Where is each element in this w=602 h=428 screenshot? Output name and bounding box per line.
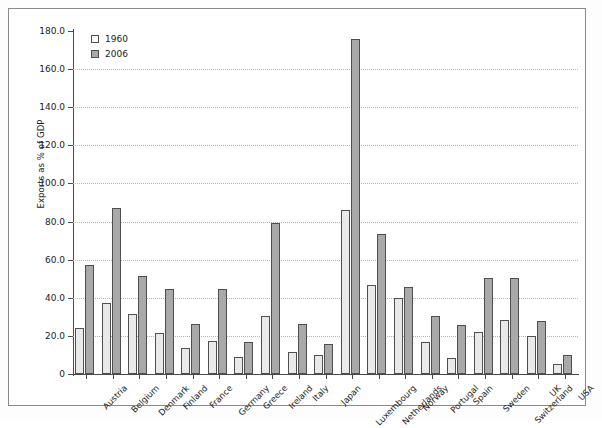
bar-austria-1960	[75, 328, 84, 374]
bar-france-2006	[191, 324, 200, 374]
bar-netherlands-1960	[367, 285, 376, 374]
bar-portugal-2006	[431, 316, 440, 374]
bar-ireland-1960	[261, 316, 270, 374]
bar-group	[232, 31, 259, 374]
x-tick-label: Italy	[310, 383, 330, 403]
y-tick-label: 180.0	[39, 26, 65, 36]
legend-swatch-1960	[91, 35, 99, 43]
bar-austria-2006	[85, 265, 94, 374]
legend-label-2006: 2006	[105, 49, 128, 59]
x-tick-label: Sweden	[501, 383, 532, 414]
y-tick-label: 0	[59, 369, 65, 379]
bar-uk-2006	[537, 321, 546, 374]
x-tick	[272, 374, 273, 379]
bar-japan-2006	[324, 344, 333, 374]
x-tick	[299, 374, 300, 379]
bar-luxembourg-1960	[341, 210, 350, 374]
bar-norway-2006	[404, 287, 413, 374]
bar-usa-2006	[563, 355, 572, 374]
x-tick	[538, 374, 539, 379]
bar-ireland-2006	[271, 223, 280, 374]
x-tick	[432, 374, 433, 379]
y-tick-label: 120.0	[39, 140, 65, 150]
x-tick	[512, 374, 513, 379]
y-tick-label: 100.0	[39, 178, 65, 188]
bar-switzerland-2006	[510, 278, 519, 374]
x-tick	[485, 374, 486, 379]
chart-frame: Exports as % of GDP 180.0160.0140.0120.0…	[8, 8, 586, 406]
bar-group	[525, 31, 552, 374]
bar-netherlands-2006	[377, 234, 386, 374]
bar-sweden-1960	[474, 332, 483, 374]
x-tick	[458, 374, 459, 379]
plot-area: 180.0160.0140.0120.0100.080.060.040.020.…	[73, 31, 578, 374]
x-tick-label: France	[207, 383, 234, 410]
legend-item-2006: 2006	[91, 46, 128, 61]
legend-swatch-2006	[91, 50, 99, 58]
bar-belgium-2006	[112, 208, 121, 374]
x-tick	[193, 374, 194, 379]
x-tick	[565, 374, 566, 379]
bar-group	[259, 31, 286, 374]
y-tick-label: 20.0	[45, 331, 65, 341]
bar-finland-1960	[155, 333, 164, 374]
bar-italy-1960	[288, 352, 297, 374]
bar-group	[445, 31, 472, 374]
bar-finland-2006	[165, 289, 174, 374]
bar-spain-2006	[457, 325, 466, 374]
bar-italy-2006	[298, 324, 307, 374]
x-tick	[86, 374, 87, 379]
bar-usa-1960	[553, 364, 562, 374]
x-tick-label: Austria	[101, 383, 129, 411]
bar-group	[339, 31, 366, 374]
bar-portugal-1960	[421, 342, 430, 374]
bar-uk-1960	[527, 336, 536, 374]
x-tick	[246, 374, 247, 379]
bar-group	[419, 31, 446, 374]
bar-germany-2006	[218, 289, 227, 374]
bar-belgium-1960	[102, 303, 111, 374]
x-tick-label: Japan	[338, 383, 362, 407]
y-tick	[68, 374, 73, 375]
y-tick-label: 40.0	[45, 293, 65, 303]
bar-switzerland-1960	[500, 320, 509, 374]
y-tick-label: 160.0	[39, 64, 65, 74]
bar-group	[153, 31, 180, 374]
bar-france-1960	[181, 348, 190, 374]
bar-group	[100, 31, 127, 374]
bar-denmark-2006	[138, 276, 147, 374]
bar-spain-1960	[447, 358, 456, 374]
x-tick	[166, 374, 167, 379]
bar-group	[312, 31, 339, 374]
bar-group	[392, 31, 419, 374]
x-tick	[326, 374, 327, 379]
bar-series-container	[73, 31, 578, 374]
x-tick	[139, 374, 140, 379]
x-tick	[405, 374, 406, 379]
bar-group	[73, 31, 100, 374]
y-tick-label: 80.0	[45, 217, 65, 227]
bar-germany-1960	[208, 341, 217, 374]
bar-denmark-1960	[128, 314, 137, 374]
bar-greece-1960	[234, 357, 243, 374]
chart-legend: 1960 2006	[91, 31, 128, 61]
bar-group	[498, 31, 525, 374]
x-tick	[113, 374, 114, 379]
y-tick-label: 140.0	[39, 102, 65, 112]
bar-luxembourg-2006	[351, 39, 360, 374]
bar-group	[551, 31, 578, 374]
bar-group	[365, 31, 392, 374]
bar-group	[206, 31, 233, 374]
bar-norway-1960	[394, 298, 403, 374]
bar-group	[286, 31, 313, 374]
bar-sweden-2006	[484, 278, 493, 374]
y-tick-label: 60.0	[45, 255, 65, 265]
bar-group	[126, 31, 153, 374]
bar-japan-1960	[314, 355, 323, 374]
legend-item-1960: 1960	[91, 31, 128, 46]
bar-group	[472, 31, 499, 374]
bar-group	[179, 31, 206, 374]
x-tick-label: USA	[576, 383, 596, 403]
legend-label-1960: 1960	[105, 34, 128, 44]
